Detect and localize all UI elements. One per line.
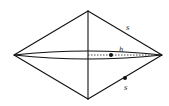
- edge-bottom-left: [14, 55, 88, 99]
- bicone-diagram: s h s: [0, 0, 169, 106]
- label-slant-upper: s: [126, 24, 130, 32]
- height-point: [109, 53, 113, 57]
- edge-top-left: [14, 11, 88, 55]
- slant-point: [123, 76, 127, 80]
- label-height: h: [119, 46, 124, 54]
- label-slant-lower: s: [124, 84, 128, 92]
- edge-top-right: [88, 11, 162, 55]
